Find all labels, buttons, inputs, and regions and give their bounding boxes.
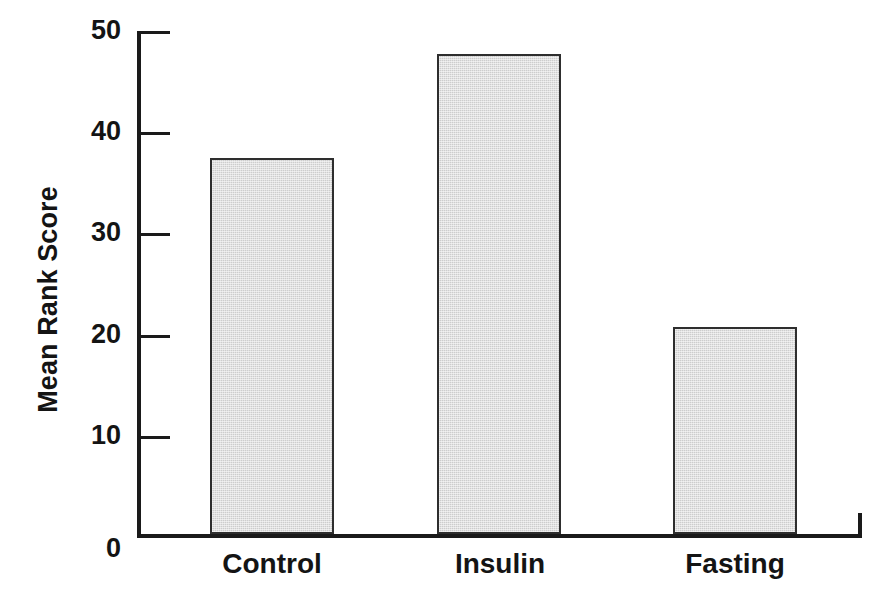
y-axis-tick-label: 40: [91, 116, 121, 146]
bar-insulin: [437, 54, 561, 534]
y-axis-tick-label: 30: [91, 217, 121, 247]
y-axis-tick-mark: [137, 132, 170, 135]
x-axis-label-fasting: Fasting: [615, 547, 855, 581]
bar-fasting: [673, 327, 797, 534]
bar-control: [210, 158, 334, 534]
y-axis-tick-label: 10: [91, 420, 121, 450]
y-axis-tick-label: 0: [106, 533, 121, 563]
x-axis-label-control: Control: [152, 547, 392, 581]
plot-area: 50403020100: [137, 31, 862, 537]
bar-chart: Mean Rank Score 50403020100 ControlInsul…: [0, 0, 886, 609]
y-axis-tick-label: 50: [91, 15, 121, 45]
y-axis-tick-mark: [137, 233, 170, 236]
y-axis-line: [137, 31, 141, 537]
y-axis-tick-mark: [137, 436, 170, 439]
x-axis-line: [137, 534, 862, 538]
x-axis-right-cap: [858, 513, 862, 538]
y-axis-tick-mark: [137, 335, 170, 338]
y-axis-tick-label: 20: [91, 319, 121, 349]
y-axis-title: Mean Rank Score: [33, 100, 64, 500]
x-axis-label-insulin: Insulin: [380, 547, 620, 581]
y-axis-top-cap: [137, 31, 170, 34]
